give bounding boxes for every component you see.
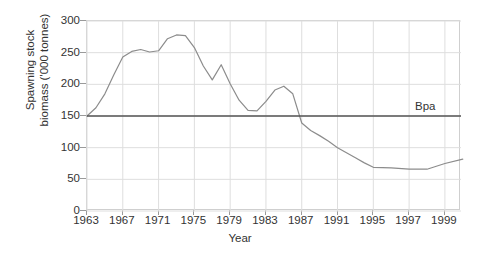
- chart-figure: Spawning stock biomass ('000 tonnes) Yea…: [0, 0, 480, 259]
- y-axis-tick-label: 200: [46, 77, 80, 89]
- x-axis-tick-label: 1999: [421, 214, 467, 226]
- series-line-spawning-stock-biomass: [87, 35, 463, 169]
- plot-area: Bpa: [86, 20, 460, 210]
- reference-line-label-bpa: Bpa: [415, 100, 435, 112]
- series-layer: [87, 21, 461, 211]
- y-axis-tick-label: 100: [46, 141, 80, 153]
- y-axis-tick-label: 300: [46, 14, 80, 26]
- y-axis-tick-label: 250: [46, 46, 80, 58]
- y-axis-tick-label: 50: [46, 172, 80, 184]
- y-axis-tick-label: 150: [46, 109, 80, 121]
